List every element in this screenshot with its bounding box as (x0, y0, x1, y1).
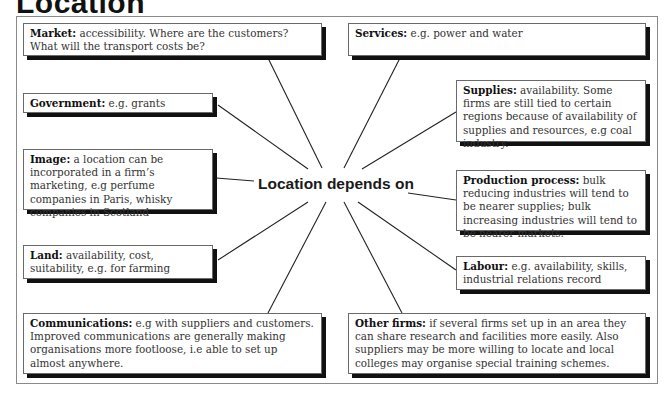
factor-text: e.g. grants (105, 97, 165, 109)
factor-box-services: Services: e.g. power and water (348, 23, 646, 56)
factor-label: Production process: (463, 174, 579, 186)
factor-label: Labour: (463, 260, 508, 272)
factor-box-market: Market: accessibility. Where are the cus… (23, 23, 322, 56)
connector-government (218, 105, 308, 169)
factor-box-other-firms: Other firms: if several firms set up in … (348, 313, 646, 374)
connector-labour (358, 202, 456, 270)
factor-box-communications: Communications: e.g with suppliers and c… (23, 313, 322, 374)
factor-label: Market: (30, 27, 76, 39)
connector-supplies (362, 112, 456, 169)
factor-box-image: Image: a location can be incorporated in… (23, 149, 213, 210)
factor-label: Services: (355, 27, 407, 39)
connector-image (216, 178, 254, 181)
factor-label: Government: (30, 97, 105, 109)
connector-market (268, 58, 322, 168)
connector-communications (268, 202, 326, 313)
factor-box-supplies: Supplies: availability. Some firms are s… (456, 80, 646, 142)
connector-production (408, 193, 456, 200)
factor-label: Other firms: (355, 317, 426, 329)
factor-label: Communications: (30, 317, 132, 329)
factor-box-production-process: Production process: bulk reducing indust… (456, 170, 646, 231)
factor-box-labour: Labour: e.g. availability, skills, indus… (456, 256, 646, 290)
connector-other-firms (344, 202, 402, 313)
factor-label: Supplies: (463, 84, 517, 96)
factor-label: Image: (30, 153, 70, 165)
factor-box-government: Government: e.g. grants (23, 93, 213, 113)
center-node: Location depends on (258, 175, 414, 193)
connector-land (218, 202, 308, 260)
factor-text: e.g. power and water (407, 27, 522, 39)
factor-label: Land: (30, 249, 63, 261)
factor-box-land: Land: availability, cost, suitability, e… (23, 245, 213, 279)
